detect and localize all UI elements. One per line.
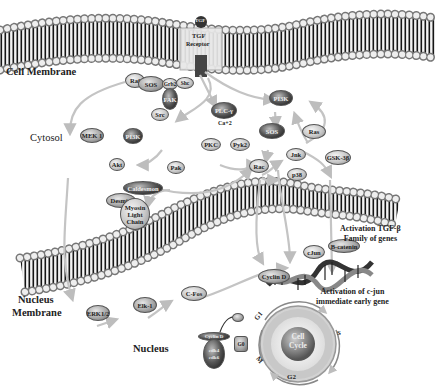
node-cjun: cJun (303, 245, 325, 259)
receptor-label-1: TGF (192, 32, 205, 39)
label-cytosol: Cytosol (30, 132, 63, 143)
node-ras: Ras (302, 124, 326, 139)
node-akt: Akt (109, 158, 125, 171)
node-jnk: Jnk (286, 148, 306, 161)
cell-cycle-center: Cell Cycle (289, 332, 307, 350)
node-pyk2: Pyk2 (230, 138, 250, 151)
label-ca: Ca+2 (218, 120, 232, 126)
node-pak: Pak (167, 161, 185, 174)
label-nucleus-membrane-1: Nucleus (18, 294, 54, 305)
node-rac: Rac (249, 159, 269, 173)
phase-s: S (337, 329, 341, 337)
node-plc-gamma: PLC-γ (211, 102, 237, 119)
node-c-fos: C-Fos (181, 286, 207, 301)
node-p38: p38 (287, 168, 307, 181)
annotation-tgf-genes: Activation TGF-β Family of genes (340, 224, 401, 244)
label-nucleus-membrane-2: Membrane (12, 307, 62, 318)
node-fak: FAK (162, 88, 178, 110)
label-nucleus: Nucleus (133, 343, 169, 354)
label-cell-membrane: Cell Membrane (6, 66, 76, 77)
node-myosin-light-chain: MyosinLightChain (120, 198, 150, 230)
node-mek1: MEK 1 (80, 128, 104, 143)
node-cdk4-cdk6: cdk4cdk6 (203, 339, 225, 369)
tgf-ligand-label: TGF (195, 18, 205, 23)
node-complex-cap (232, 313, 244, 322)
node-shc: Shc (176, 77, 194, 89)
annotation-cjun-gene: Activation of c-jun immediate early gene (316, 287, 389, 307)
diagram-graphics (0, 0, 435, 389)
node-gsk3b: GSK-3β (325, 150, 351, 165)
node-cyclin-d: Cyclin D (258, 269, 290, 284)
node-pi3k-top: PI3K (269, 90, 293, 106)
node-sos-top: SOS (138, 76, 164, 92)
node-g0: G0 (234, 336, 248, 352)
node-elk1: Elk-1 (133, 297, 157, 313)
node-pi3k-left: PI3K (123, 128, 143, 144)
phase-g2: G2 (287, 373, 296, 381)
node-src: Src (151, 108, 169, 121)
node-erk12: ERK1/2 (86, 305, 110, 321)
node-caldesmon: Caldesmon (123, 181, 163, 195)
tgf-signaling-diagram: Cell Membrane Cytosol Nucleus Membrane N… (0, 0, 435, 389)
node-pkc: PKC (201, 138, 221, 151)
receptor-label-2: Receptor (186, 41, 209, 47)
node-sos-mid: SOS (259, 123, 285, 139)
